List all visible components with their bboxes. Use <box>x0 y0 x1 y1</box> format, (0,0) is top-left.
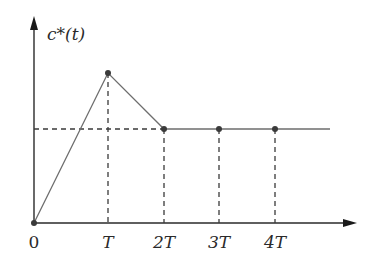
x-tick-label-2T: 2T <box>152 232 177 252</box>
sample-point-0 <box>31 220 37 226</box>
x-axis-arrow-icon <box>343 219 357 227</box>
x-tick-label-4T: 4T <box>263 232 288 252</box>
sample-point-3T <box>216 126 222 132</box>
sample-point-4T <box>272 126 278 132</box>
x-tick-label-0: 0 <box>29 232 40 252</box>
y-axis-arrow-icon <box>30 16 38 30</box>
sample-points <box>31 70 278 226</box>
sample-point-2T <box>161 126 167 132</box>
sample-point-T <box>105 70 111 76</box>
axes <box>30 16 357 227</box>
sampled-response-diagram: c*(t) 0 T 2T 3T 4T <box>0 0 369 257</box>
y-axis-label: c*(t) <box>47 24 85 44</box>
x-tick-label-T: T <box>102 232 115 252</box>
response-curve <box>34 73 330 223</box>
reference-lines <box>34 73 275 223</box>
x-tick-label-3T: 3T <box>208 232 232 252</box>
x-tick-labels: 0 T 2T 3T 4T <box>29 232 288 252</box>
